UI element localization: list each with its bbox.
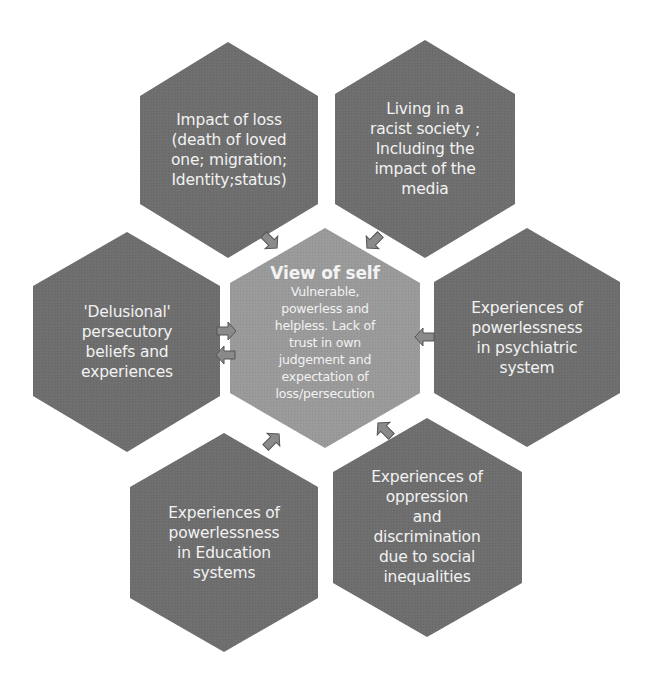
center-line: judgement and <box>279 351 372 368</box>
label-line: powerlessness <box>169 523 280 543</box>
label-line: systems <box>193 563 256 583</box>
label-line: racist society ; <box>370 119 480 139</box>
label-top-right: Living in a racist society ; Including t… <box>343 94 507 204</box>
label-bottom-right: Experiences of oppression and discrimina… <box>340 460 514 594</box>
label-line: experiences <box>81 362 173 382</box>
arrow-bottom-left-to-center <box>259 428 285 454</box>
label-line: powerlessness <box>472 318 583 338</box>
label-line: Experiences of <box>168 503 280 523</box>
label-line: beliefs and <box>86 342 169 362</box>
label-line: due to social <box>379 547 475 567</box>
label-line: inequalities <box>383 567 470 587</box>
label-bottom-left: Experiences of powerlessness in Educatio… <box>137 488 311 598</box>
label-line: oppression <box>386 487 469 507</box>
label-line: in psychiatric <box>477 338 578 358</box>
label-right: Experiences of powerlessness in psychiat… <box>440 283 614 393</box>
label-line: persecutory <box>82 322 173 342</box>
center-line: Vulnerable, <box>291 283 359 300</box>
label-left: 'Delusional' persecutory beliefs and exp… <box>40 287 214 397</box>
label-line: discrimination <box>373 527 480 547</box>
label-center: View of self Vulnerable, powerless and h… <box>238 263 412 413</box>
center-line: expectation of <box>281 368 368 385</box>
label-line: (death of loved <box>172 130 287 150</box>
center-line: helpless. Lack of <box>275 317 376 334</box>
label-top-left: Impact of loss (death of loved one; migr… <box>148 96 310 204</box>
label-line: 'Delusional' <box>83 302 170 322</box>
center-title: View of self <box>270 263 379 283</box>
label-line: one; migration; <box>171 150 287 170</box>
label-line: media <box>401 179 448 199</box>
label-line: Identity;status) <box>171 170 286 190</box>
label-line: impact of the <box>375 159 476 179</box>
center-line: trust in own <box>289 334 361 351</box>
label-line: and <box>413 507 442 527</box>
center-line: loss/persecution <box>276 385 375 402</box>
label-line: Living in a <box>386 99 463 119</box>
label-line: in Education <box>177 543 271 563</box>
center-line: powerless and <box>281 300 369 317</box>
label-line: Impact of loss <box>176 110 282 130</box>
label-line: Experiences of <box>471 298 583 318</box>
label-line: system <box>500 358 555 378</box>
label-line: Experiences of <box>371 467 483 487</box>
label-line: Including the <box>376 139 475 159</box>
